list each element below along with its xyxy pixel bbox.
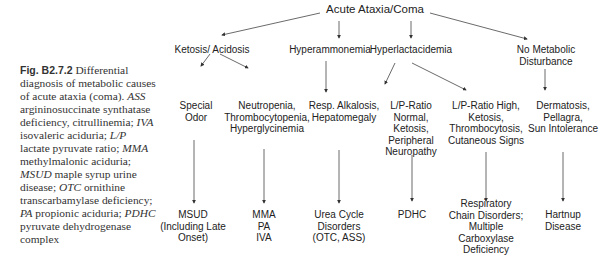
node-special-odor: Special Odor <box>180 100 213 123</box>
node-ketosis-acidosis: Ketosis/ Acidosis <box>174 44 249 56</box>
node-pdhc: PDHC <box>398 209 426 221</box>
node-lp-ratio-high: L/P-Ratio High, Ketosis, Thrombocytosis,… <box>448 100 524 146</box>
node-resp-alkalosis: Resp. Alkalosis, Hepatomegaly <box>309 100 380 123</box>
node-mma-pa-iva: MMA PA IVA <box>252 209 275 244</box>
node-neutropenia: Neutropenia, Thrombocytopenia, Hyperglyc… <box>224 100 310 135</box>
node-urea-cycle-disorders: Urea Cycle Disorders (OTC, ASS) <box>313 209 366 244</box>
node-hyperammonemia: Hyperammonemia <box>289 44 371 56</box>
node-hartnup-disease: Hartnup Disease <box>545 209 581 232</box>
node-msud: MSUD (Including Late Onset) <box>160 209 226 244</box>
node-hyperlactacidemia: Hyperlactacidemia <box>370 44 452 56</box>
node-respiratory-chain: Respiratory Chain Disorders; Multiple Ca… <box>449 198 523 256</box>
node-no-metabolic-disturbance: No Metabolic Disturbance <box>517 44 575 67</box>
node-dermatosis: Dermatosis, Pellagra, Sun Intolerance <box>528 100 598 135</box>
node-root: Acute Ataxia/Coma <box>326 4 424 16</box>
node-lp-ratio-normal: L/P-Ratio Normal, Ketosis, Peripheral Ne… <box>385 100 437 158</box>
